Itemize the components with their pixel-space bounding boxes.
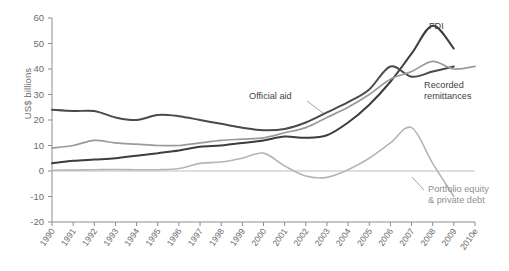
x-tick-label: 2010e — [458, 226, 480, 251]
y-tick-label: 30 — [33, 89, 44, 100]
series-label-official-aid: Official aid — [249, 91, 292, 102]
x-tick-label: 1995 — [143, 226, 162, 248]
series-label-portfolio-equity: Portfolio equity & private debt — [428, 184, 489, 205]
x-tick-label: 1993 — [101, 226, 120, 248]
x-tick-label: 2007 — [397, 226, 416, 248]
x-tick-label: 2002 — [291, 226, 310, 248]
annotation-leader-line — [412, 177, 424, 190]
x-tick-label: 2005 — [355, 226, 374, 248]
x-tick-label: 2008 — [418, 226, 437, 248]
x-tick-label: 1990 — [38, 226, 57, 248]
y-tick-label: 0 — [39, 165, 44, 176]
y-tick-label: -20 — [30, 216, 44, 227]
y-tick-label: 10 — [33, 140, 44, 151]
y-tick-label: 50 — [33, 38, 44, 49]
y-tick-label: 40 — [33, 63, 44, 74]
x-tick-label: 2003 — [313, 226, 332, 248]
y-tick-label: -10 — [30, 191, 44, 202]
y-tick-label: 60 — [33, 12, 44, 23]
x-tick-label: 1994 — [122, 226, 141, 248]
series-label-fdi: FDI — [429, 21, 444, 32]
series-line-recorded-remittances — [52, 61, 475, 148]
x-tick-label: 1996 — [165, 226, 184, 248]
x-tick-label: 2009 — [440, 226, 459, 248]
series-line-portfolio-equity-private-debt — [52, 127, 454, 196]
x-tick-label: 2000 — [249, 226, 268, 248]
x-axis: 1990199119921993199419951996199719981999… — [38, 222, 480, 252]
annotation-leader-line — [307, 101, 323, 113]
x-tick-label: 1992 — [80, 226, 99, 248]
y-axis: 6050403020100-10-20 — [30, 12, 52, 227]
x-tick-label: 2001 — [270, 226, 289, 248]
x-tick-label: 1997 — [186, 226, 205, 248]
x-tick-label: 2006 — [376, 226, 395, 248]
y-tick-label: 20 — [33, 114, 44, 125]
x-tick-label: 1991 — [59, 226, 78, 248]
series-label-recorded-remittances: Recorded remittances — [424, 80, 472, 101]
line-chart-plot: 6050403020100-10-20 19901991199219931994… — [0, 0, 509, 271]
chart-container: US$ billions 6050403020100-10-20 1990199… — [0, 0, 509, 271]
x-tick-label: 1999 — [228, 226, 247, 248]
x-tick-label: 2004 — [334, 226, 353, 248]
x-tick-label: 1998 — [207, 226, 226, 248]
